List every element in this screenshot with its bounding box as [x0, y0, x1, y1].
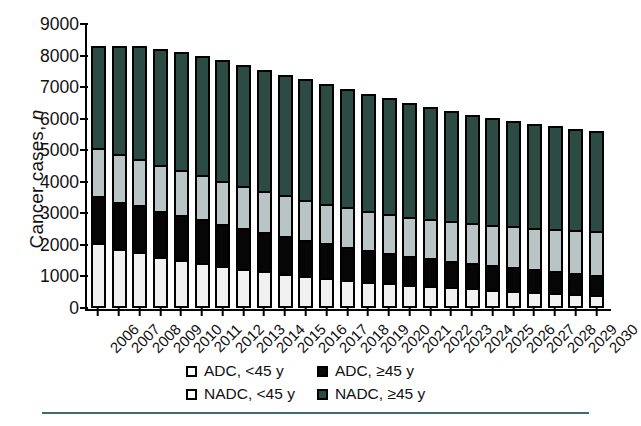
- bar-segment-nadc-ge45: [176, 54, 187, 170]
- bar-segment-nadc-lt45: [550, 229, 561, 273]
- x-tick-mark: [575, 308, 577, 316]
- bar-segment-nadc-ge45: [591, 133, 602, 232]
- bar-segment-adc-lt45: [550, 293, 561, 306]
- bar-segment-adc-lt45: [300, 276, 311, 306]
- bar-stack[interactable]: [174, 52, 189, 308]
- bar-segment-nadc-ge45: [508, 123, 519, 226]
- bar-segment-nadc-ge45: [155, 51, 166, 164]
- bar-segment-nadc-ge45: [342, 91, 353, 208]
- bar-segment-adc-lt45: [342, 280, 353, 306]
- bar-segment-nadc-lt45: [217, 181, 228, 226]
- bar-stack[interactable]: [153, 49, 168, 308]
- bar-segment-adc-lt45: [570, 294, 581, 306]
- y-tick-label: 8000: [40, 45, 79, 66]
- x-tick-mark: [118, 308, 120, 316]
- x-tick-mark: [201, 308, 203, 316]
- bar-segment-adc-ge45: [425, 260, 436, 286]
- bar-segment-nadc-lt45: [467, 223, 478, 265]
- bar-stack[interactable]: [465, 115, 480, 308]
- bar-stack[interactable]: [548, 126, 563, 308]
- bottom-divider-rule: [42, 412, 589, 414]
- bar-segment-nadc-ge45: [487, 120, 498, 225]
- bar-segment-nadc-lt45: [238, 186, 249, 230]
- bar-segment-adc-ge45: [93, 198, 104, 244]
- y-tick-label: 3000: [40, 203, 79, 224]
- bar-stack[interactable]: [506, 121, 521, 308]
- bar-segment-nadc-lt45: [591, 231, 602, 276]
- x-tick-mark: [512, 308, 514, 316]
- bar-stack[interactable]: [278, 75, 293, 309]
- bar-segment-adc-lt45: [93, 243, 104, 306]
- bar-stack[interactable]: [215, 60, 230, 308]
- legend-swatch-icon: [317, 389, 328, 400]
- x-tick-mark: [554, 308, 556, 316]
- bar-segment-adc-ge45: [259, 234, 270, 271]
- y-tick-label: 6000: [40, 108, 79, 129]
- bar-segment-nadc-lt45: [425, 219, 436, 260]
- bar-segment-adc-ge45: [197, 221, 208, 263]
- bar-segment-nadc-lt45: [300, 200, 311, 242]
- bar-segment-nadc-lt45: [280, 195, 291, 238]
- bar-stack[interactable]: [382, 98, 397, 308]
- bar-segment-nadc-lt45: [570, 230, 581, 275]
- bar-stack[interactable]: [132, 46, 147, 308]
- bar-stack[interactable]: [423, 107, 438, 308]
- bar-segment-nadc-ge45: [570, 131, 581, 231]
- bar-segment-nadc-lt45: [384, 214, 395, 255]
- bar-segment-nadc-lt45: [155, 165, 166, 213]
- bar-segment-nadc-ge45: [446, 113, 457, 221]
- bar-stack[interactable]: [361, 94, 376, 308]
- bar-segment-adc-lt45: [446, 287, 457, 306]
- bar-stack[interactable]: [527, 124, 542, 308]
- legend-label: ADC, ≥45 y: [335, 362, 414, 380]
- bar-segment-nadc-lt45: [529, 228, 540, 272]
- bar-stack[interactable]: [485, 118, 500, 308]
- bar-segment-adc-ge45: [404, 258, 415, 285]
- bar-stack[interactable]: [195, 56, 210, 308]
- y-tick-mark: [80, 307, 88, 309]
- y-tick-mark: [80, 275, 88, 277]
- bar-segment-adc-lt45: [404, 285, 415, 306]
- legend-nadc-lt45[interactable]: NADC, <45 y: [186, 385, 295, 403]
- bar-segment-nadc-ge45: [280, 77, 291, 196]
- bar-segment-nadc-ge45: [114, 48, 125, 154]
- bar-segment-adc-ge45: [321, 245, 332, 278]
- bar-segment-adc-lt45: [467, 288, 478, 306]
- bar-segment-adc-lt45: [155, 257, 166, 306]
- bar-stack[interactable]: [236, 65, 251, 308]
- bar-stack[interactable]: [589, 131, 604, 308]
- bar-segment-adc-ge45: [591, 277, 602, 295]
- bar-segment-adc-lt45: [384, 283, 395, 306]
- bar-stack[interactable]: [568, 129, 583, 308]
- legend-adc-lt45[interactable]: ADC, <45 y: [186, 362, 295, 380]
- bar-stack[interactable]: [257, 70, 272, 308]
- bar-segment-nadc-lt45: [321, 204, 332, 246]
- y-tick-mark: [80, 23, 88, 25]
- bar-stack[interactable]: [444, 111, 459, 308]
- bar-stack[interactable]: [402, 103, 417, 308]
- legend-adc-ge45[interactable]: ADC, ≥45 y: [317, 362, 425, 380]
- bar-segment-nadc-ge45: [134, 48, 145, 158]
- bar-segment-nadc-lt45: [508, 226, 519, 269]
- y-tick-label: 9000: [40, 14, 79, 35]
- legend-nadc-ge45[interactable]: NADC, ≥45 y: [317, 385, 425, 403]
- y-tick-label: 4000: [40, 171, 79, 192]
- bar-segment-adc-lt45: [114, 249, 125, 306]
- bar-segment-nadc-ge45: [217, 62, 228, 180]
- bar-stack[interactable]: [340, 89, 355, 308]
- bar-stack[interactable]: [298, 79, 313, 308]
- bar-stack[interactable]: [91, 46, 106, 308]
- bar-segment-nadc-lt45: [404, 217, 415, 258]
- x-tick-mark: [429, 308, 431, 316]
- x-tick-mark: [325, 308, 327, 316]
- y-tick-label: 0: [69, 298, 79, 319]
- bar-segment-adc-lt45: [508, 291, 519, 306]
- bar-stack[interactable]: [112, 46, 127, 308]
- bar-segment-nadc-lt45: [176, 170, 187, 217]
- legend-label: NADC, <45 y: [204, 385, 295, 403]
- bar-segment-adc-lt45: [197, 263, 208, 306]
- bar-stack[interactable]: [319, 84, 334, 308]
- bar-segment-adc-ge45: [529, 271, 540, 292]
- bar-segment-nadc-ge45: [93, 48, 104, 148]
